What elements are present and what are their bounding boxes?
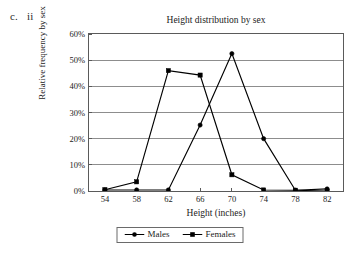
data-point-males	[166, 188, 170, 191]
data-point-males	[198, 123, 202, 127]
chart-title: Height distribution by sex	[88, 15, 344, 25]
y-tick-label: 20%	[69, 134, 85, 144]
x-tick-label: 54	[101, 194, 110, 204]
chart-legend: MalesFemales	[117, 227, 244, 243]
y-tick-label: 0%	[74, 186, 85, 196]
y-axis-title: Relative frequency by sex	[37, 0, 47, 121]
data-point-females	[230, 173, 234, 177]
legend-marker-square-icon	[183, 230, 203, 239]
x-tick-label: 78	[291, 194, 300, 204]
series-males	[103, 52, 329, 191]
legend-marker-circle-icon	[125, 230, 145, 239]
legend-item-females[interactable]: Females	[183, 230, 236, 239]
data-point-females	[135, 180, 139, 184]
x-tick-label: 74	[259, 194, 268, 204]
x-tick-label: 62	[164, 194, 173, 204]
data-point-females	[103, 188, 107, 191]
series-females	[103, 69, 329, 191]
figure-page: c.ii Height distribution by sex 0%10%20%…	[0, 0, 360, 253]
legend-label: Males	[148, 230, 170, 239]
y-tick-label: 40%	[69, 81, 85, 91]
y-tick-label: 10%	[69, 160, 85, 170]
x-tick-label: 58	[132, 194, 141, 204]
legend-item-males[interactable]: Males	[125, 230, 170, 239]
data-point-males	[135, 188, 139, 191]
x-tick-label: 82	[323, 194, 332, 204]
x-tick-label: 66	[196, 194, 205, 204]
x-axis-title: Height (inches)	[88, 208, 344, 218]
x-axis-tick-labels: 5458626670747882	[88, 194, 344, 208]
series-line-males	[105, 54, 327, 191]
plot-svg	[89, 34, 343, 191]
plot-area	[88, 33, 344, 192]
y-axis-tick-labels: 0%10%20%30%40%50%60%	[54, 33, 85, 192]
y-tick-label: 30%	[69, 108, 85, 118]
data-point-females	[166, 69, 170, 73]
y-tick-label: 50%	[69, 55, 85, 65]
x-tick-label: 70	[228, 194, 237, 204]
data-point-females	[325, 189, 329, 191]
data-point-males	[230, 52, 234, 56]
y-tick-label: 60%	[69, 29, 85, 39]
data-point-females	[262, 188, 266, 191]
data-point-females	[198, 73, 202, 77]
data-point-males	[262, 137, 266, 141]
data-point-females	[293, 188, 297, 191]
legend-label: Females	[206, 230, 236, 239]
height-distribution-chart: Height distribution by sex 0%10%20%30%40…	[0, 0, 360, 253]
